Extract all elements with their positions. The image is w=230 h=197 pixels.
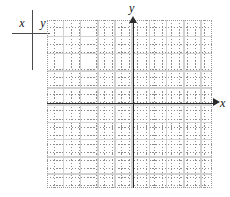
x-axis-label: x <box>220 97 225 109</box>
x-axis-line <box>47 103 215 104</box>
value-table-header-x: x <box>15 17 29 29</box>
coordinate-grid[interactable] <box>47 20 212 188</box>
coordinate-plane-figure: x y x y <box>0 0 230 197</box>
y-axis-line <box>133 22 134 188</box>
value-table-column-divider <box>32 10 33 70</box>
x-axis-arrow-icon <box>213 98 220 106</box>
y-axis-arrow-icon <box>129 16 137 23</box>
y-axis-label: y <box>129 2 134 14</box>
grid-border <box>47 20 212 188</box>
value-table-header-rule <box>12 33 50 34</box>
value-table[interactable]: x y <box>10 8 52 70</box>
